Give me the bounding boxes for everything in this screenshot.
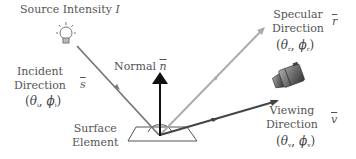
source-symbol: I [115, 3, 119, 16]
specular-phi-sub: r [307, 45, 310, 52]
surface-line2: Element [72, 136, 119, 150]
incident-theta: θ [30, 94, 37, 108]
incident-angles: (θi, ϕi) [25, 94, 61, 108]
source-label-text: Source Intensity [20, 3, 112, 16]
viewing-line2: Direction [266, 118, 318, 132]
specular-theta: θ [281, 38, 288, 52]
viewing-vector-symbol: v [331, 113, 337, 126]
normal-label-text: Normal [114, 60, 156, 73]
specular-line2: Direction [272, 22, 324, 36]
normal-vector-symbol: n [160, 60, 167, 73]
viewing-phi: ϕ [299, 134, 307, 148]
viewing-phi-sub: v [307, 141, 310, 148]
viewing-line1: Viewing [266, 104, 318, 118]
incident-line2: Direction [14, 79, 66, 93]
source-intensity-label: Source Intensity I [20, 3, 120, 17]
specular-vector-symbol: r [332, 15, 337, 28]
specular-phi: ϕ [298, 38, 306, 52]
viewing-theta: θ [281, 134, 288, 148]
viewing-theta-sub: v [288, 141, 291, 148]
light-bulb-icon [56, 22, 76, 43]
incident-theta-sub: i [37, 101, 39, 108]
camera-icon [270, 62, 305, 91]
viewing-direction-label: Viewing Direction [266, 104, 318, 132]
specular-angles: (θr, ϕr) [276, 38, 314, 52]
surface-element-label: Surface Element [72, 122, 119, 150]
incident-phi: ϕ [46, 94, 54, 108]
viewing-arrowhead-mid [211, 118, 219, 122]
incident-direction-label: Incident Direction [14, 65, 66, 93]
reflection-diagram: Source Intensity I Normal n Incident Dir… [0, 0, 356, 159]
incident-line1: Incident [14, 65, 66, 79]
viewing-angles: (θv, ϕv) [276, 134, 315, 148]
specular-direction-label: Specular Direction [272, 8, 324, 36]
incident-phi-sub: i [55, 101, 57, 108]
surface-line1: Surface [72, 122, 119, 136]
incident-vector-symbol: s [80, 78, 86, 91]
specular-line1: Specular [272, 8, 324, 22]
specular-theta-sub: r [288, 45, 291, 52]
normal-label: Normal n [114, 60, 167, 74]
